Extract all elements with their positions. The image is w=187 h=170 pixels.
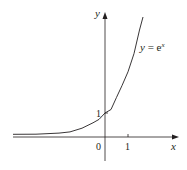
annotation-eq: = e [145,41,162,53]
exponential-graph: y x 0 1 1 y = ex [0,0,187,170]
x-axis-label: x [170,140,176,152]
y-axis-label: y [94,7,100,19]
x-axis-arrow-icon [172,135,179,140]
x-tick-label-1: 1 [125,141,130,152]
exp-curve [13,17,143,134]
y-axis-arrow-icon [103,12,108,19]
y-tick-label-1: 1 [96,108,101,119]
annotation-exponent: x [160,41,165,49]
origin-label: 0 [96,141,101,152]
curve-annotation: y = ex [139,41,165,53]
